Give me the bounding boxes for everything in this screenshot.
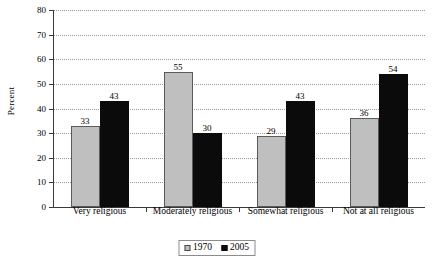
y-tick-label: 0 xyxy=(42,202,47,212)
x-tick-mark xyxy=(332,207,333,212)
y-tick-mark xyxy=(49,207,53,208)
gridline xyxy=(54,35,425,36)
bar-1970-moderately-religious: 55 xyxy=(164,72,193,207)
y-tick-mark xyxy=(49,10,53,11)
y-tick-label: 30 xyxy=(37,128,46,138)
black-square-swatch-icon xyxy=(221,245,227,251)
bar-2005-moderately-religious: 30 xyxy=(193,133,222,207)
bar-value-label: 54 xyxy=(389,64,398,74)
bar-value-label: 30 xyxy=(203,123,212,133)
bar-value-label: 43 xyxy=(296,91,305,101)
y-tick-label: 10 xyxy=(37,177,46,187)
x-tick-mark xyxy=(146,207,147,212)
x-axis-category-label: Not at all religious xyxy=(343,206,414,216)
y-tick-mark xyxy=(49,133,53,134)
light-gray-square-swatch-icon xyxy=(184,245,190,251)
bar-value-label: 33 xyxy=(81,116,90,126)
gridline xyxy=(54,84,425,85)
y-axis-title: Percent xyxy=(6,66,16,136)
bar-2005-somewhat-religious: 43 xyxy=(286,101,315,207)
legend-entry-1970: 1970 xyxy=(184,242,212,253)
legend-entry-2005: 2005 xyxy=(221,242,249,253)
y-tick-mark xyxy=(49,84,53,85)
plot-area: 01020304050607080 3343553029433654 xyxy=(53,10,425,207)
y-tick-mark xyxy=(49,182,53,183)
x-axis-category-label: Moderately religious xyxy=(153,206,232,216)
grouped-bar-chart: Percent 01020304050607080 33435530294336… xyxy=(0,0,433,264)
bar-2005-very-religious: 43 xyxy=(100,101,129,207)
bar-2005-not-at-all-religious: 54 xyxy=(379,74,408,207)
y-tick-label: 40 xyxy=(37,104,46,114)
y-tick-mark xyxy=(49,35,53,36)
y-tick-mark xyxy=(49,109,53,110)
bar-value-label: 43 xyxy=(110,91,119,101)
x-axis-category-label: Somewhat religious xyxy=(248,206,324,216)
y-tick-label: 60 xyxy=(37,54,46,64)
legend-label-2005: 2005 xyxy=(230,242,249,253)
bar-value-label: 29 xyxy=(267,126,276,136)
x-tick-mark xyxy=(239,207,240,212)
y-tick-label: 70 xyxy=(37,30,46,40)
bar-1970-somewhat-religious: 29 xyxy=(257,136,286,207)
y-tick-mark xyxy=(49,158,53,159)
bar-1970-not-at-all-religious: 36 xyxy=(350,118,379,207)
x-axis-category-label: Very religious xyxy=(73,206,127,216)
chart-legend: 1970 2005 xyxy=(178,240,255,256)
bar-1970-very-religious: 33 xyxy=(71,126,100,207)
bar-value-label: 36 xyxy=(360,108,369,118)
y-tick-label: 20 xyxy=(37,153,46,163)
bar-value-label: 55 xyxy=(174,62,183,72)
gridline xyxy=(54,10,425,11)
legend-label-1970: 1970 xyxy=(193,242,212,253)
y-tick-label: 50 xyxy=(37,79,46,89)
y-tick-mark xyxy=(49,59,53,60)
y-tick-label: 80 xyxy=(37,5,46,15)
gridline xyxy=(54,59,425,60)
